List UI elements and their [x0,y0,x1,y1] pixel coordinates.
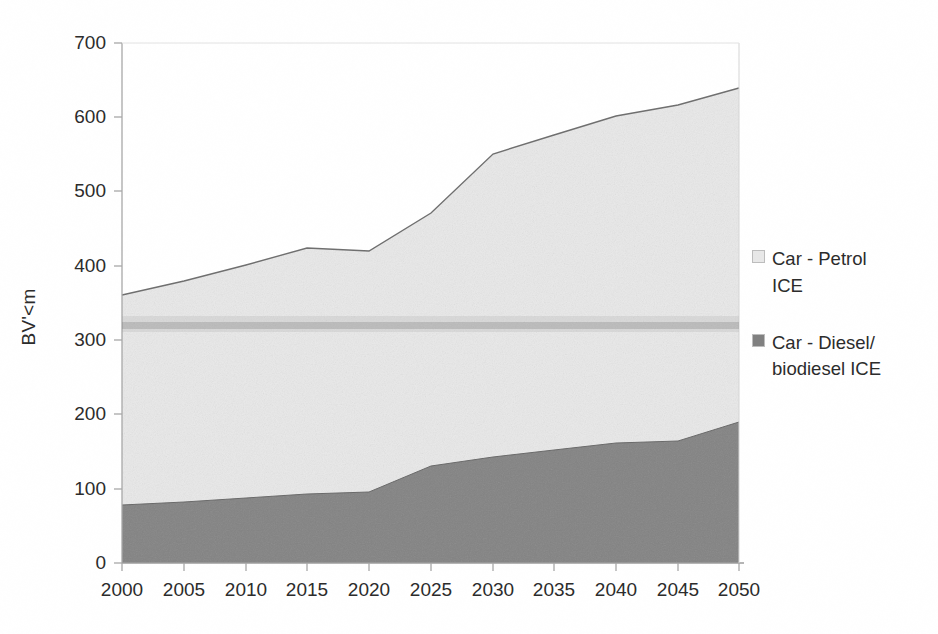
x-tick-2005: 2005 [149,580,219,599]
legend-label-petrol-line2: ICE [772,273,867,300]
legend-swatch-petrol-icon [752,250,765,263]
legend-label-diesel: Car - Diesel/ biodiesel ICE [772,330,881,384]
legend-label-diesel-line1: Car - Diesel/ [772,332,875,353]
x-tick-2015: 2015 [272,580,342,599]
legend-item-diesel[interactable]: Car - Diesel/ biodiesel ICE [752,330,938,384]
y-axis-title: BV'<m [18,272,40,362]
y-axis-ticks [114,43,122,563]
legend-swatch-diesel-icon [752,334,765,347]
x-tick-2000: 2000 [87,580,157,599]
legend-label-petrol-line1: Car - Petrol [772,248,867,269]
chart-container: BV'<m 700 600 500 400 300 200 100 0 2000… [0,0,938,634]
legend-item-petrol[interactable]: Car - Petrol ICE [752,246,938,300]
x-tick-2035: 2035 [519,580,589,599]
legend-label-diesel-line2: biodiesel ICE [772,356,881,383]
x-tick-2020: 2020 [334,580,404,599]
x-tick-2025: 2025 [396,580,466,599]
x-tick-2040: 2040 [581,580,651,599]
legend-label-petrol: Car - Petrol ICE [772,246,867,300]
x-tick-2030: 2030 [458,580,528,599]
x-tick-2010: 2010 [211,580,281,599]
x-axis-ticks [122,563,739,571]
x-tick-2045: 2045 [643,580,713,599]
chart-legend: Car - Petrol ICE Car - Diesel/ biodiesel… [752,246,938,409]
x-tick-2050: 2050 [704,580,774,599]
